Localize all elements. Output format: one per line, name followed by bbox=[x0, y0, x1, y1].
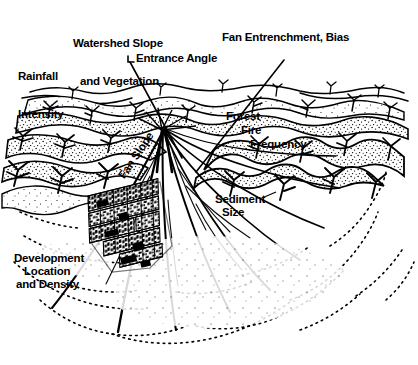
label-rainfall-line2: Intensity bbox=[18, 108, 64, 121]
label-development: Development bbox=[14, 252, 84, 265]
label-size: Size bbox=[222, 206, 244, 219]
label-entrance-angle: Entrance Angle bbox=[136, 52, 217, 65]
label-frequency: Frequency bbox=[250, 138, 306, 151]
label-watershed-line1: Watershed Slope bbox=[73, 37, 163, 50]
label-sediment: Sediment bbox=[215, 193, 265, 206]
label-fire: Fire bbox=[241, 124, 261, 137]
label-watershed-line2: and Vegetation bbox=[73, 75, 163, 88]
label-rainfall-line1: Rainfall bbox=[18, 70, 64, 83]
label-forest: Forest bbox=[226, 110, 260, 123]
alluvial-fan-diagram: Rainfall Intensity Watershed Slope and V… bbox=[0, 0, 418, 365]
label-rainfall-intensity: Rainfall Intensity bbox=[18, 44, 64, 147]
label-development-density: and Density bbox=[16, 278, 79, 291]
label-fan-entrenchment-bias: Fan Entrenchment, Bias bbox=[222, 31, 349, 44]
label-development-location: Location bbox=[24, 265, 70, 278]
